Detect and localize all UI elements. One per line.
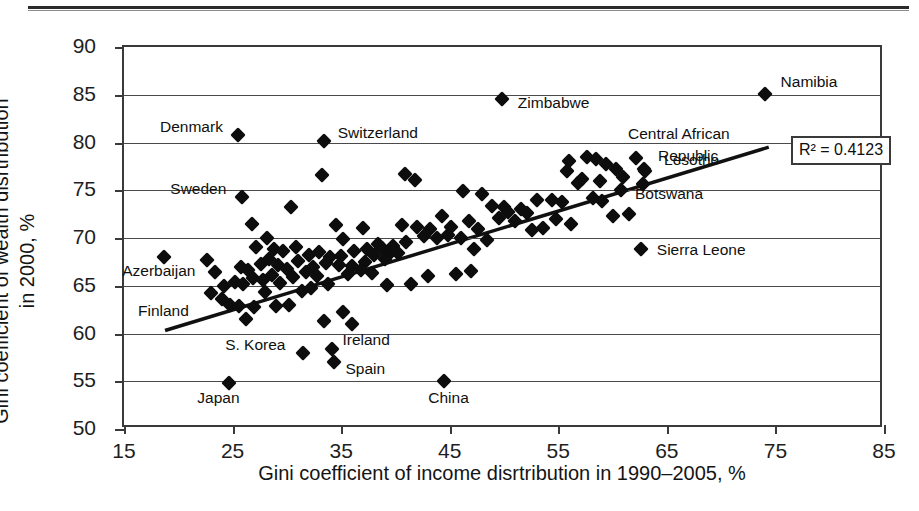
data-point (316, 133, 332, 149)
data-point (235, 189, 251, 205)
data-point (379, 277, 395, 293)
data-point (757, 86, 773, 102)
y-tick-label-70: 70 (56, 225, 96, 249)
y-tick-label-50: 50 (56, 416, 96, 440)
point-label-japan: Japan (197, 389, 239, 407)
x-tick-mark-85 (884, 425, 886, 434)
data-point (605, 208, 621, 224)
x-tick-label-55: 55 (528, 439, 588, 463)
x-tick-mark-45 (450, 425, 452, 434)
data-point (559, 163, 575, 179)
y-tick-label-85: 85 (56, 82, 96, 106)
data-point (437, 373, 453, 389)
point-label-central-african-republic: Republic (658, 147, 718, 165)
point-label-botswana: Botswana (635, 185, 703, 203)
y-axis-title-line1: Gini coefficient of wealth disrtribution (0, 96, 14, 426)
data-point (464, 264, 480, 280)
data-point (479, 232, 495, 248)
point-label-finland: Finland (138, 302, 189, 320)
data-point (288, 239, 304, 255)
y-tick-mark-60 (115, 334, 124, 336)
gridline-y-75 (124, 190, 880, 191)
data-point (621, 206, 637, 222)
x-tick-mark-65 (667, 425, 669, 434)
data-point (295, 345, 311, 361)
data-point (394, 217, 410, 233)
x-tick-mark-35 (341, 425, 343, 434)
y-tick-mark-85 (115, 95, 124, 97)
point-label-ireland: Ireland (342, 331, 389, 349)
data-point (207, 265, 223, 281)
point-label-central-african-republic: Central African (628, 125, 730, 143)
data-point (328, 217, 344, 233)
chart-page: Gini coefficient of wealth disrtribution… (0, 0, 919, 511)
y-tick-mark-90 (115, 47, 124, 49)
data-point (230, 127, 246, 143)
point-label-sierra-leone: Sierra Leone (657, 241, 746, 259)
x-tick-mark-55 (558, 425, 560, 434)
x-tick-label-75: 75 (745, 439, 805, 463)
data-point (344, 316, 360, 332)
data-point (529, 192, 545, 208)
data-point (257, 285, 273, 301)
point-label-s-korea: S. Korea (225, 336, 285, 354)
y-tick-label-55: 55 (56, 368, 96, 392)
data-point (320, 276, 336, 292)
point-label-china: China (428, 389, 469, 407)
y-tick-mark-50 (115, 429, 124, 431)
data-point (247, 299, 263, 315)
data-point (316, 313, 332, 329)
y-tick-label-90: 90 (56, 34, 96, 58)
data-point (336, 304, 352, 320)
y-tick-mark-80 (115, 143, 124, 145)
data-point (453, 230, 469, 246)
gridline-y-70 (124, 238, 880, 239)
point-label-zimbabwe: Zimbabwe (518, 94, 590, 112)
y-axis-title-line2: in 2000, % (14, 96, 40, 426)
gridline-y-60 (124, 334, 880, 335)
x-tick-mark-15 (124, 425, 126, 434)
data-point (314, 167, 330, 183)
data-point (346, 244, 362, 260)
data-point (613, 182, 629, 198)
y-tick-mark-75 (115, 190, 124, 192)
point-label-spain: Spain (346, 360, 386, 378)
x-tick-label-45: 45 (420, 439, 480, 463)
x-tick-label-35: 35 (311, 439, 371, 463)
point-label-sweden: Sweden (170, 180, 226, 198)
y-tick-label-75: 75 (56, 177, 96, 201)
data-point (633, 241, 649, 257)
data-point (564, 216, 580, 232)
data-point (448, 267, 464, 283)
point-label-azerbaijan: Azerbaijan (122, 262, 195, 280)
point-label-denmark: Denmark (160, 118, 223, 136)
r-squared-annotation: R² = 0.4123 (791, 136, 891, 165)
data-point (281, 297, 297, 313)
x-tick-label-15: 15 (94, 439, 154, 463)
y-tick-mark-70 (115, 238, 124, 240)
y-tick-mark-65 (115, 286, 124, 288)
data-point (592, 173, 608, 189)
point-label-namibia: Namibia (781, 73, 838, 91)
data-point (494, 91, 510, 107)
data-point (420, 268, 436, 284)
gridline-y-55 (124, 381, 880, 382)
data-point (548, 211, 564, 227)
data-point (455, 183, 471, 199)
data-point (403, 276, 419, 292)
y-axis-title: Gini coefficient of wealth disrtribution… (0, 96, 40, 426)
x-tick-mark-75 (775, 425, 777, 434)
page-top-rule-secondary (28, 10, 909, 11)
data-point (466, 241, 482, 257)
x-axis-title: Gini coefficient of income disrtribution… (122, 462, 882, 485)
data-point (283, 200, 299, 216)
point-label-switzerland: Switzerland (338, 124, 418, 142)
x-tick-label-85: 85 (854, 439, 914, 463)
y-tick-label-60: 60 (56, 321, 96, 345)
data-point (238, 311, 254, 327)
page-top-rule (28, 6, 909, 9)
x-tick-mark-25 (233, 425, 235, 434)
x-tick-label-65: 65 (637, 439, 697, 463)
data-point (326, 354, 342, 370)
y-tick-label-80: 80 (56, 130, 96, 154)
